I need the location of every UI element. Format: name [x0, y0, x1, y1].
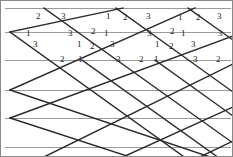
- angle-label-1: 1: [178, 13, 183, 22]
- angle-label-1: 1: [26, 29, 31, 38]
- angle-label-1: 1: [154, 55, 159, 64]
- angle-label-3: 3: [217, 12, 222, 21]
- angle-label-3: 3: [116, 55, 121, 64]
- angle-label-2: 2: [196, 13, 201, 22]
- angle-label-2: 2: [36, 12, 41, 21]
- angle-label-2: 2: [90, 42, 95, 51]
- angle-label-2: 2: [123, 13, 128, 22]
- angle-label-3: 3: [147, 29, 152, 38]
- angle-label-3: 3: [146, 12, 151, 21]
- angle-label-1: 1: [155, 40, 160, 49]
- lattice-figure: [0, 0, 233, 157]
- angle-label-1: 1: [78, 55, 83, 64]
- angle-label-3: 3: [68, 29, 73, 38]
- angle-label-2: 2: [139, 55, 144, 64]
- angle-label-3: 3: [33, 40, 38, 49]
- angle-label-2: 2: [60, 55, 65, 64]
- angle-label-3: 3: [110, 40, 115, 49]
- angle-label-3: 3: [193, 55, 198, 64]
- angle-label-3: 3: [218, 29, 223, 38]
- angle-label-2: 2: [91, 27, 96, 36]
- figure-root: 231231231321321331231232132132: [0, 0, 233, 157]
- angle-label-2: 2: [169, 42, 174, 51]
- angle-label-2: 2: [216, 55, 221, 64]
- angle-label-1: 1: [106, 12, 111, 21]
- angle-label-1: 1: [181, 29, 186, 38]
- angle-label-1: 1: [104, 29, 109, 38]
- angle-label-3: 3: [61, 12, 66, 21]
- angle-label-3: 3: [191, 40, 196, 49]
- angle-label-2: 2: [170, 27, 175, 36]
- angle-label-1: 1: [77, 40, 82, 49]
